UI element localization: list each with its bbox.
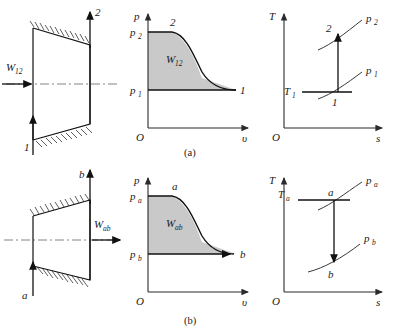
caption-b: (b)	[184, 315, 197, 327]
pv-p-low-sub-a: 1	[138, 90, 142, 99]
pv-state-end-label-a: 2	[170, 16, 176, 28]
ts-origin-label-a: O	[272, 131, 280, 143]
pv-origin-label-b: O	[136, 295, 144, 307]
isobar-low-label-a: p	[365, 64, 372, 76]
pv-origin-label-a: O	[136, 131, 144, 143]
isobar-low-curve-a	[318, 72, 362, 99]
ts-y-axis-label-b: T	[269, 174, 276, 186]
isobar-low-sub-b: b	[372, 238, 376, 247]
work-area-fill-a	[148, 32, 236, 90]
pv-p-low-label-a: p	[129, 84, 136, 96]
pv-state-end-label-b: b	[240, 248, 246, 260]
hatching-lower-b	[37, 267, 88, 287]
pv-x-axis-label-b: υ	[242, 296, 247, 308]
isobar-low-sub-a: 1	[374, 70, 378, 79]
case-b-ts-diagram: T s O p a p b T a a b	[262, 166, 394, 331]
pv-y-axis-label-b: p	[133, 174, 140, 186]
ts-state-start-label-a: 1	[332, 96, 338, 108]
work-label-sub-a: 12	[15, 67, 23, 76]
case-b-pv-diagram: p υ O p a p b a b W ab (b)	[126, 166, 262, 331]
pv-p-low-label-b: p	[129, 248, 136, 260]
pv-y-axis-label-a: p	[133, 10, 140, 22]
isobar-high-curve-b	[318, 182, 362, 210]
ts-temp-label-b: T	[278, 188, 285, 200]
work-area-fill-b	[148, 196, 236, 254]
pv-state-start-label-a: 1	[240, 84, 246, 96]
pv-p-high-sub-a: 2	[138, 32, 142, 41]
inlet-state-label-a: 1	[24, 141, 30, 153]
pv-p-low-sub-b: b	[138, 254, 142, 263]
isobar-low-label-b: p	[363, 232, 370, 244]
isobar-high-sub-a: 2	[374, 18, 378, 27]
pv-x-axis-label-a: υ	[242, 132, 247, 144]
ts-x-axis-label-b: s	[376, 296, 380, 308]
ts-temp-sub-a: 1	[292, 91, 296, 100]
work-label-sub-b: ab	[103, 224, 111, 233]
case-b-device-schematic: a b W ab	[0, 166, 126, 331]
ts-state-end-label-b: b	[328, 268, 334, 280]
hatching-upper-a	[30, 21, 89, 43]
pv-p-high-label-a: p	[129, 26, 136, 38]
isobar-high-label-a: p	[365, 12, 372, 24]
ts-temp-sub-b: a	[286, 194, 290, 203]
inlet-state-label-b: a	[22, 289, 28, 301]
case-a-pv-diagram: p υ O p 2 p 1 2 1 W 12 (a)	[126, 0, 262, 160]
case-a-ts-diagram: T s O p 2 p 1 T 1 1 2	[262, 0, 394, 160]
caption-a: (a)	[184, 147, 196, 159]
pv-p-high-sub-b: a	[138, 196, 142, 205]
ts-state-end-label-a: 2	[326, 22, 332, 34]
isobar-high-curve-a	[318, 20, 362, 50]
hatching-upper-b	[30, 194, 89, 215]
case-a-device-schematic: 1 2 W 12	[0, 0, 126, 160]
ts-temp-label-a: T	[284, 85, 291, 97]
outlet-state-label-a: 2	[95, 6, 101, 18]
pv-area-sub-b: ab	[175, 223, 183, 232]
outlet-state-label-b: b	[79, 168, 85, 180]
ts-y-axis-label-a: T	[269, 10, 276, 22]
isobar-high-label-b: p	[365, 174, 372, 186]
pv-state-start-label-b: a	[172, 180, 178, 192]
ts-x-axis-label-a: s	[376, 132, 380, 144]
pv-area-sub-a: 12	[175, 59, 183, 68]
pv-p-high-label-b: p	[129, 190, 136, 202]
ts-origin-label-b: O	[272, 295, 280, 307]
isobar-high-sub-b: a	[374, 180, 378, 189]
ts-state-start-label-b: a	[328, 186, 334, 198]
